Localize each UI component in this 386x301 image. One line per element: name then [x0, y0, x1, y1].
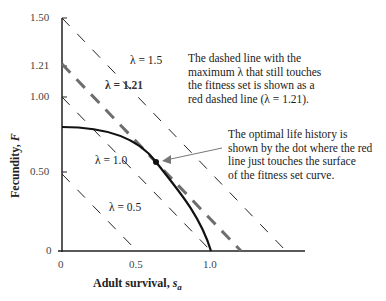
y-tick-label-1.21: 1.21 — [30, 59, 49, 71]
x-axis-title: Adult survival, sa — [93, 276, 182, 292]
y-tick-label-1.00: 1.00 — [30, 90, 49, 102]
x-tick-label-0: 0 — [58, 258, 64, 270]
label-lambda-1.21: λ = 1.21 — [105, 79, 143, 91]
fitness-set-curve — [62, 127, 211, 251]
annotation-arrow — [166, 148, 222, 160]
x-tick-label-1.0: 1.0 — [203, 258, 217, 270]
annotation-max-lambda: The dashed line with the maximum λ that … — [188, 52, 321, 106]
y-axis-title: Fecundity, F — [8, 133, 23, 198]
y-tick-label-1.50: 1.50 — [30, 11, 49, 23]
y-tick-label-0.50: 0.50 — [30, 165, 49, 177]
x-tick-label-0.5: 0.5 — [129, 258, 143, 270]
annotation-line: maximum λ that still touches — [188, 66, 321, 80]
annotation-line: red dashed line (λ = 1.21). — [188, 93, 321, 107]
label-lambda-0.5: λ = 0.5 — [109, 201, 141, 213]
isocline-lambda-1.0 — [62, 97, 211, 251]
annotation-line: the fitness set is shown as a — [188, 79, 321, 93]
annotation-line: The dashed line with the — [188, 52, 321, 66]
optimal-point — [153, 159, 159, 165]
arrow-head-icon — [162, 155, 171, 164]
label-lambda-1.0: λ = 1.0 — [95, 154, 127, 166]
y-tick-label-0: 0 — [46, 244, 52, 256]
label-lambda-1.5: λ = 1.5 — [130, 54, 162, 66]
annotation-line: shown by the dot where the red — [228, 142, 372, 156]
annotation-line: of the fitness set curve. — [228, 169, 372, 183]
annotation-line: The optimal life history is — [228, 128, 372, 142]
annotation-optimal: The optimal life history is shown by the… — [228, 128, 372, 182]
annotation-line: line just touches the surface — [228, 155, 372, 169]
